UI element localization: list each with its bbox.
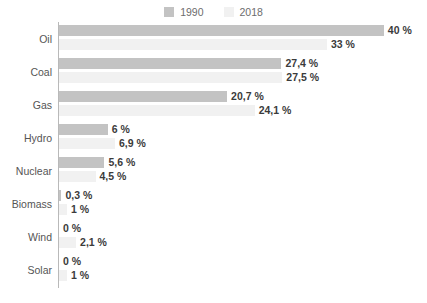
bar-group-nuclear-1990: 5,6 %: [59, 157, 135, 168]
bar-gas-1990: [59, 91, 227, 102]
bar-group-biomass-2018: 1 %: [59, 204, 89, 215]
bar-oil-1990: [59, 25, 384, 36]
bar-group-gas-1990: 20,7 %: [59, 91, 264, 102]
bar-value-oil-2018: 33 %: [331, 39, 355, 50]
bar-group-oil-1990: 40 %: [59, 25, 412, 36]
bar-value-hydro-1990: 6 %: [112, 124, 130, 135]
category-label-biomass: Biomass: [0, 187, 52, 220]
bar-wind-2018: [59, 237, 76, 248]
bar-group-biomass-1990: 0,3 %: [59, 190, 92, 201]
bar-row: Oil40 %33 %: [0, 22, 427, 55]
bar-row: Hydro6 %6,9 %: [0, 121, 427, 154]
bar-group-hydro-2018: 6,9 %: [59, 138, 146, 149]
bar-oil-2018: [59, 39, 327, 50]
bar-value-gas-2018: 24,1 %: [259, 105, 292, 116]
bar-group-gas-2018: 24,1 %: [59, 105, 291, 116]
bar-chart: 1990 2018 Oil40 %33 %Coal27,4 %27,5 %Gas…: [0, 0, 427, 303]
bar-group-coal-1990: 27,4 %: [59, 58, 318, 69]
legend-item-2018: 2018: [224, 7, 263, 17]
bar-value-gas-1990: 20,7 %: [231, 91, 264, 102]
category-label-solar: Solar: [0, 253, 52, 286]
category-label-coal: Coal: [0, 55, 52, 88]
legend-item-1990: 1990: [164, 7, 203, 17]
bar-coal-2018: [59, 72, 282, 83]
bar-value-biomass-2018: 1 %: [71, 204, 89, 215]
bar-value-nuclear-2018: 4,5 %: [100, 171, 127, 182]
bar-value-coal-1990: 27,4 %: [285, 58, 318, 69]
bar-group-hydro-1990: 6 %: [59, 124, 130, 135]
bar-hydro-1990: [59, 124, 108, 135]
plot-area: Oil40 %33 %Coal27,4 %27,5 %Gas20,7 %24,1…: [0, 22, 427, 298]
bar-hydro-2018: [59, 138, 115, 149]
bar-value-wind-2018: 2,1 %: [80, 237, 107, 248]
legend-label-2018: 2018: [240, 7, 263, 17]
bar-value-solar-1990: 0 %: [63, 256, 81, 267]
category-label-nuclear: Nuclear: [0, 154, 52, 187]
bar-group-solar-1990: 0 %: [59, 256, 81, 267]
bar-value-wind-1990: 0 %: [63, 223, 81, 234]
bar-group-oil-2018: 33 %: [59, 39, 355, 50]
bar-row: Biomass0,3 %1 %: [0, 187, 427, 220]
bar-gas-2018: [59, 105, 255, 116]
bar-group-nuclear-2018: 4,5 %: [59, 171, 126, 182]
bar-group-coal-2018: 27,5 %: [59, 72, 319, 83]
chart-legend: 1990 2018: [0, 4, 427, 20]
category-label-hydro: Hydro: [0, 121, 52, 154]
category-label-wind: Wind: [0, 220, 52, 253]
bar-group-wind-2018: 2,1 %: [59, 237, 107, 248]
bar-nuclear-1990: [59, 157, 104, 168]
bar-value-oil-1990: 40 %: [388, 25, 412, 36]
bar-group-solar-2018: 1 %: [59, 270, 89, 281]
legend-swatch-2018: [224, 7, 234, 17]
bar-row: Nuclear5,6 %4,5 %: [0, 154, 427, 187]
bar-value-solar-2018: 1 %: [71, 270, 89, 281]
bar-biomass-1990: [59, 190, 61, 201]
legend-label-1990: 1990: [180, 7, 203, 17]
legend-swatch-1990: [164, 7, 174, 17]
bar-value-coal-2018: 27,5 %: [286, 72, 319, 83]
bar-value-biomass-1990: 0,3 %: [65, 190, 92, 201]
bar-group-wind-1990: 0 %: [59, 223, 81, 234]
bar-solar-2018: [59, 270, 67, 281]
bar-nuclear-2018: [59, 171, 96, 182]
bar-row: Coal27,4 %27,5 %: [0, 55, 427, 88]
bar-value-nuclear-1990: 5,6 %: [108, 157, 135, 168]
bar-value-hydro-2018: 6,9 %: [119, 138, 146, 149]
bar-coal-1990: [59, 58, 281, 69]
category-label-oil: Oil: [0, 22, 52, 55]
bar-biomass-2018: [59, 204, 67, 215]
bar-row: Wind0 %2,1 %: [0, 220, 427, 253]
bar-row: Solar0 %1 %: [0, 253, 427, 286]
bar-row: Gas20,7 %24,1 %: [0, 88, 427, 121]
category-label-gas: Gas: [0, 88, 52, 121]
